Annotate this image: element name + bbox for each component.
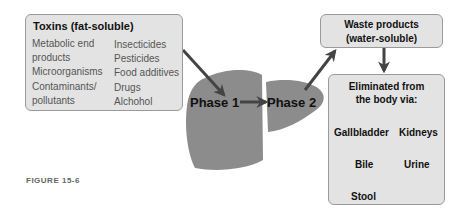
toxin-item: Drugs [114,81,179,95]
toxin-item: Pesticides [114,52,179,66]
waste-line-1: Waste products [321,18,442,32]
elimination-title-line-1: Eliminated from [329,80,444,93]
toxin-item: Alchohol [114,95,179,109]
route-stool: Stool [351,191,376,202]
waste-line-2: (water-soluble) [321,32,442,46]
elimination-title-line-2: the body via: [329,93,444,106]
toxins-box: Toxins (fat-soluble) Metabolic end produ… [25,14,183,111]
route-bile: Bile [355,159,373,170]
toxin-item: Food additives [114,66,179,80]
toxins-left-column: Metabolic end products Microorganisms Co… [32,37,103,108]
toxin-item: products [32,51,103,65]
toxin-item: pollutants [32,94,103,108]
route-gallbladder: Gallbladder [334,127,389,138]
toxin-item: Metabolic end [32,37,103,51]
toxins-right-column: Insecticides Pesticides Food additives D… [114,38,179,109]
figure-caption: FIGURE 15-6 [26,176,80,185]
waste-products-box: Waste products (water-soluble) [320,14,443,48]
route-urine: Urine [404,159,430,170]
route-kidneys: Kidneys [399,127,438,138]
elimination-box: Eliminated from the body via: Gallbladde… [328,74,445,205]
phase-1-label: Phase 1 [190,95,239,110]
toxin-item: Contaminants/ [32,80,103,94]
liver-right-lobe [186,70,263,170]
phase-2-label: Phase 2 [267,95,316,110]
elimination-title: Eliminated from the body via: [329,80,444,106]
toxin-item: Microorganisms [32,65,103,79]
toxins-title: Toxins (fat-soluble) [33,20,134,32]
toxin-item: Insecticides [114,38,179,52]
